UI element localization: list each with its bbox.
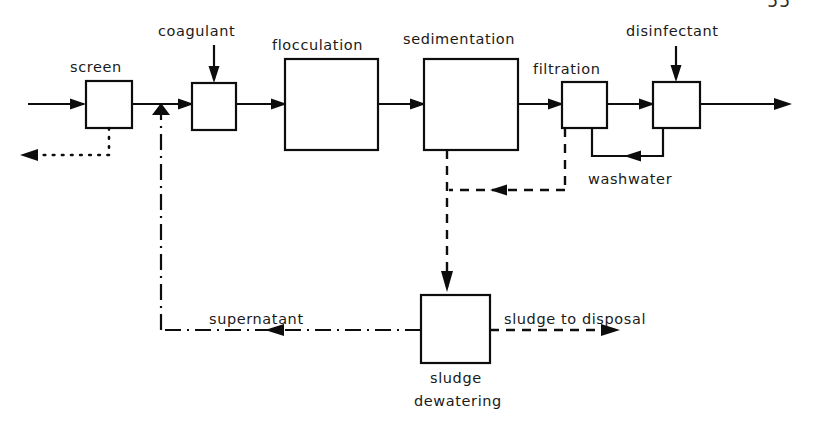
label-screen: screen: [70, 59, 122, 75]
unit-flocculation[interactable]: [285, 59, 378, 150]
unit-disinfection[interactable]: [653, 82, 700, 128]
flow-diagram-canvas: screen coagulant flocculation sedimentat…: [0, 0, 813, 428]
stream-floc-to-sedimentation: [378, 99, 426, 110]
stream-disinfectant-dose: [671, 46, 682, 82]
unit-filtration[interactable]: [562, 82, 607, 128]
unit-screen[interactable]: [86, 81, 132, 128]
label-disinfectant: disinfectant: [626, 23, 719, 39]
stream-sedimentation-sludge: [441, 150, 453, 292]
stream-effluent: [700, 98, 792, 110]
stream-washwater-return: [592, 128, 663, 162]
unit-sedimentation[interactable]: [424, 59, 518, 150]
label-supernatant: supernatant: [209, 311, 304, 327]
label-dewatering: dewatering: [414, 393, 502, 409]
label-washwater: washwater: [588, 171, 672, 187]
process-flow-diagram: 55: [0, 0, 813, 428]
label-filtration: filtration: [533, 61, 600, 77]
label-sludge-to-disposal: sludge to disposal: [504, 311, 646, 327]
stream-influent: [28, 99, 86, 110]
label-sludge: sludge: [430, 370, 482, 386]
label-sedimentation: sedimentation: [403, 31, 515, 47]
stream-filt-to-disinfection: [607, 99, 655, 110]
unit-sludge-dewatering[interactable]: [421, 295, 490, 363]
label-flocculation: flocculation: [272, 37, 363, 53]
unit-coagulant-mixer[interactable]: [192, 83, 236, 130]
stream-coagulant-dose: [209, 45, 220, 83]
stream-mixer-to-flocculation: [236, 99, 287, 110]
stream-screenings-reject: [20, 128, 109, 161]
stream-sed-to-filtration: [518, 99, 564, 110]
label-coagulant: coagulant: [158, 23, 235, 39]
